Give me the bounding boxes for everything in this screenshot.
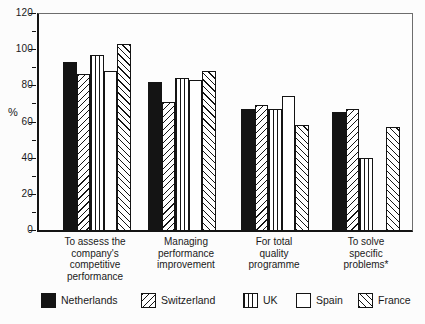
legend-label-france: France [378, 293, 411, 308]
category-label-line: specific [318, 248, 414, 260]
legend-label-uk: UK [263, 293, 278, 308]
bar-uk-group1 [175, 78, 189, 230]
category-label-line: For total [226, 236, 322, 248]
y-axis-tick-label-120: 120 [0, 7, 33, 19]
legend-item-spain: Spain [296, 293, 343, 308]
legend-swatch-switzerland [141, 293, 156, 308]
y-axis-tick-label-0: 0 [0, 224, 33, 236]
bar-france-group0 [117, 44, 131, 230]
legend-item-netherlands: Netherlands [41, 293, 118, 308]
y-axis-minor-tick-50 [32, 140, 36, 141]
y-axis-minor-tick-30 [32, 176, 36, 177]
category-label-3: To solvespecificproblems* [318, 236, 414, 271]
bar-group-2 [241, 96, 309, 230]
bar-france-group1 [202, 71, 216, 230]
category-label-line: programme [226, 259, 322, 271]
legend-label-netherlands: Netherlands [61, 293, 118, 308]
category-label-line: To solve [318, 236, 414, 248]
bar-netherlands-group2 [241, 109, 255, 230]
y-axis-minor-tick-70 [32, 103, 36, 104]
bar-group-0 [63, 44, 131, 230]
y-axis-tick-label-80: 80 [0, 79, 33, 91]
y-axis-tick-label-60: 60 [0, 116, 33, 128]
category-label-1: Managingperformanceimprovement [138, 236, 234, 271]
bar-group-3 [332, 109, 400, 230]
y-axis-minor-tick-110 [32, 31, 36, 32]
category-label-2: For totalqualityprogramme [226, 236, 322, 271]
bar-switzerland-group1 [162, 102, 176, 230]
bar-uk-group2 [268, 109, 282, 230]
legend-item-switzerland: Switzerland [141, 293, 215, 308]
bar-spain-group2 [282, 96, 296, 230]
bar-switzerland-group2 [255, 105, 269, 230]
category-label-line: performance [138, 248, 234, 260]
legend-item-france: France [358, 293, 411, 308]
bar-spain-group1 [189, 80, 203, 230]
category-label-line: performance [47, 271, 143, 283]
bar-netherlands-group1 [148, 82, 162, 230]
legend-swatch-france [358, 293, 373, 308]
bar-france-group3 [386, 127, 400, 230]
legend-swatch-uk [243, 293, 258, 308]
bar-netherlands-group0 [63, 62, 77, 230]
bar-switzerland-group0 [77, 74, 91, 230]
bar-netherlands-group3 [332, 112, 346, 230]
y-axis-tick-label-20: 20 [0, 188, 33, 200]
bar-switzerland-group3 [346, 109, 360, 230]
y-axis-tick-label-40: 40 [0, 152, 33, 164]
category-label-line: Managing [138, 236, 234, 248]
y-axis-tick-label-100: 100 [0, 43, 33, 55]
category-label-line: improvement [138, 259, 234, 271]
category-label-line: company's [47, 248, 143, 260]
y-axis-minor-tick-10 [32, 212, 36, 213]
legend-swatch-spain [296, 293, 311, 308]
legend-item-uk: UK [243, 293, 278, 308]
legend-label-switzerland: Switzerland [161, 293, 215, 308]
bar-uk-group0 [90, 55, 104, 230]
bar-uk-group3 [359, 158, 373, 230]
bar-group-1 [148, 71, 216, 230]
category-label-0: To assess thecompany'scompetitiveperform… [47, 236, 143, 282]
legend-swatch-netherlands [41, 293, 56, 308]
bar-spain-group0 [104, 71, 118, 230]
bar-france-group2 [295, 125, 309, 230]
category-label-line: To assess the [47, 236, 143, 248]
y-axis-minor-tick-90 [32, 67, 36, 68]
legend-label-spain: Spain [316, 293, 343, 308]
category-label-line: competitive [47, 259, 143, 271]
category-label-line: problems* [318, 259, 414, 271]
category-label-line: quality [226, 248, 322, 260]
bar-chart-figure: % 020406080100120 To assess thecompany's… [0, 0, 425, 324]
